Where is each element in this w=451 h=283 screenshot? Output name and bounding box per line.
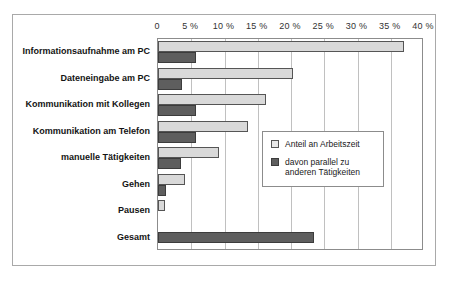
x-tick-label: 40 % (412, 20, 433, 32)
bar-parallel (158, 52, 196, 63)
bar-anteil (158, 121, 248, 132)
bar-anteil (158, 147, 219, 158)
category-label: Kommunikation mit Kollegen (25, 99, 150, 110)
x-tick-label: 20 % (279, 20, 300, 32)
legend-swatch-light (271, 140, 279, 148)
bar-parallel (158, 79, 182, 90)
x-tick-label: 25 % (313, 20, 334, 32)
bar-parallel (158, 232, 314, 243)
bar-parallel (158, 105, 196, 116)
bar-parallel (158, 185, 166, 196)
bar-anteil (158, 41, 404, 52)
y-axis-category-labels: Informationsaufnahme am PCDateneingabe a… (14, 38, 154, 250)
chart-legend: Anteil an Arbeitszeitdavon parallel zu a… (262, 131, 384, 187)
category-label: Pausen (118, 205, 150, 216)
bar-group (158, 92, 422, 119)
x-tick-label: 5 % (182, 20, 198, 32)
category-label: Kommunikation am Telefon (33, 125, 150, 136)
category-label: Informationsaufnahme am PC (22, 46, 150, 57)
bar-group (158, 39, 422, 66)
legend-entry: Anteil an Arbeitszeit (271, 139, 375, 150)
bar-anteil (158, 200, 165, 211)
bar-chart-figure: 05 %10 %15 %20 %25 %30 %35 %40 % Informa… (0, 0, 451, 283)
x-tick-label: 0 (154, 20, 159, 32)
bar-anteil (158, 94, 266, 105)
category-label: manuelle Tätigkeiten (61, 152, 150, 163)
category-label: Dateneingabe am PC (60, 72, 150, 83)
bar-anteil (158, 174, 185, 185)
bar-group (158, 198, 422, 225)
legend-swatch-dark (271, 158, 279, 166)
bar-anteil (158, 68, 293, 79)
legend-entry: davon parallel zu anderen Tätigkeiten (271, 157, 375, 178)
x-tick-label: 30 % (346, 20, 367, 32)
x-axis-tick-labels: 05 %10 %15 %20 %25 %30 %35 %40 % (157, 20, 425, 36)
legend-label: Anteil an Arbeitszeit (285, 139, 360, 150)
x-tick-label: 15 % (246, 20, 267, 32)
bar-group (158, 225, 422, 251)
category-label: Gesamt (117, 231, 150, 242)
x-tick-label: 35 % (379, 20, 400, 32)
legend-label: davon parallel zu anderen Tätigkeiten (285, 157, 360, 178)
x-tick-label: 10 % (213, 20, 234, 32)
bar-parallel (158, 132, 196, 143)
bar-group (158, 66, 422, 93)
bar-parallel (158, 158, 181, 169)
category-label: Gehen (122, 178, 150, 189)
